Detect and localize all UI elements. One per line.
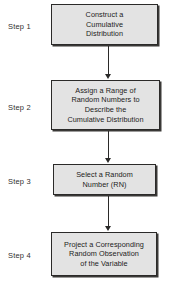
flow-node-step-2-text: Assign a Range of Random Numbers to Desc… [65,86,145,124]
flowchart-diagram: Step 1 Construct a Cumulative Distributi… [0,0,174,284]
arrow-step1-to-step2 [104,46,114,79]
flow-node-step-2: Assign a Range of Random Numbers to Desc… [51,80,160,130]
flow-node-step-4-text: Project a Corresponding Random Observati… [62,240,146,269]
flow-node-step-3: Select a Random Number (RN) [53,164,156,195]
flow-node-step-1: Construct a Cumulative Distribution [51,4,158,45]
step-label-3: Step 3 [8,178,31,186]
arrow-step3-to-step4 [104,196,114,231]
flow-node-step-3-text: Select a Random Number (RN) [74,170,135,189]
arrow-step2-to-step3 [104,131,114,163]
flow-node-step-1-text: Construct a Cumulative Distribution [84,10,126,39]
step-label-4: Step 4 [8,252,31,260]
step-label-1: Step 1 [8,23,31,31]
flow-node-step-4: Project a Corresponding Random Observati… [51,232,157,276]
step-label-2: Step 2 [8,104,31,112]
